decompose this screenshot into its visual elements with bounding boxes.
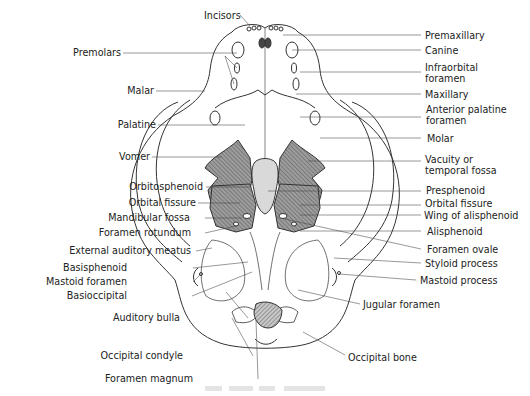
label-vomer: Vomer (119, 151, 150, 162)
label-premolars: Premolars (73, 47, 121, 58)
label-basioccipital: Basioccipital (67, 290, 127, 301)
label-foramen-rotundum: Foramen rotundum (99, 227, 191, 238)
label-orbitosphenoid: Orbitosphenoid (129, 181, 203, 192)
label-infraorbital-foramen: Infraorbital foramen (425, 62, 478, 84)
label-premaxillary: Premaxillary (425, 30, 485, 41)
label-occipital-bone: Occipital bone (348, 352, 417, 363)
label-mandibular-fossa: Mandibular fossa (108, 212, 190, 223)
label-anterior-palatine-foramen: Anterior palatine foramen (426, 104, 507, 126)
label-foramen-ovale: Foramen ovale (427, 244, 498, 255)
label-external-auditory-meatus: External auditory meatus (69, 245, 191, 256)
label-maxillary: Maxillary (425, 89, 468, 100)
label-occipital-condyle: Occipital condyle (101, 350, 183, 361)
label-alisphenoid: Alisphenoid (427, 226, 483, 237)
label-mastoid-process: Mastoid process (420, 275, 497, 286)
label-orbital-fissure-right: Orbital fissure (425, 198, 492, 209)
label-jugular-foramen: Jugular foramen (363, 299, 440, 310)
label-basisphenoid: Basisphenoid (63, 262, 127, 273)
label-presphenoid: Presphenoid (426, 185, 485, 196)
label-wing-of-alisphenoid: Wing of alisphenoid (424, 210, 518, 221)
figure-caption (205, 386, 325, 391)
label-foramen-magnum: Foramen magnum (105, 373, 193, 384)
label-vacuity-temporal-fossa: Vacuity or temporal fossa (425, 154, 497, 176)
label-orbital-fissure-left: Orbital fissure (129, 197, 196, 208)
label-palatine: Palatine (118, 119, 156, 130)
label-styloid-process: Styloid process (425, 258, 498, 269)
label-mastoid-foramen: Mastoid foramen (46, 276, 127, 287)
label-incisors: Incisors (204, 10, 241, 21)
label-canine: Canine (425, 45, 458, 56)
label-auditory-bulla: Auditory bulla (113, 312, 180, 323)
label-malar: Malar (127, 85, 154, 96)
label-molar: Molar (427, 133, 454, 144)
